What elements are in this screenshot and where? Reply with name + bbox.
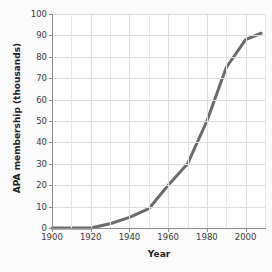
y-axis-tick-mark (49, 14, 52, 15)
y-axis-tick-label: 20 (3, 180, 47, 190)
y-axis-tick-mark (49, 121, 52, 122)
gridline-horizontal (52, 78, 265, 79)
x-axis-tick-label: 1900 (32, 232, 72, 242)
gridline-vertical-minor (149, 14, 150, 228)
gridline-horizontal (52, 100, 265, 101)
y-axis-tick-label: 50 (3, 116, 47, 126)
plot-area (52, 14, 265, 228)
x-axis-tick-label: 2000 (226, 232, 266, 242)
series-polyline (52, 33, 261, 228)
gridline-vertical-major (207, 14, 208, 228)
y-axis-title: APA membership (thousands) (12, 8, 22, 228)
y-axis-tick-mark (49, 35, 52, 36)
gridline-horizontal (52, 121, 265, 122)
x-axis-tick-label: 1980 (187, 232, 227, 242)
y-axis-tick-mark (49, 164, 52, 165)
y-axis-tick-label: 100 (3, 9, 47, 19)
gridline-vertical-minor (188, 14, 189, 228)
gridline-vertical-minor (71, 14, 72, 228)
gridline-horizontal (52, 164, 265, 165)
gridline-horizontal (52, 207, 265, 208)
y-axis-tick-label: 40 (3, 137, 47, 147)
x-axis-tick-mark (168, 229, 169, 232)
y-axis-tick-mark (49, 100, 52, 101)
y-axis-tick-label: 90 (3, 30, 47, 40)
x-axis-tick-label: 1920 (71, 232, 111, 242)
gridline-vertical-minor (265, 14, 266, 228)
y-axis-tick-label: 30 (3, 159, 47, 169)
y-axis-tick-label: 10 (3, 202, 47, 212)
gridline-vertical-major (168, 14, 169, 228)
x-axis-line (52, 228, 266, 229)
gridline-vertical-minor (110, 14, 111, 228)
y-axis-tick-label: 60 (3, 95, 47, 105)
x-axis-tick-label: 1940 (109, 232, 149, 242)
x-axis-title: Year (52, 249, 266, 259)
gridline-horizontal (52, 185, 265, 186)
gridline-vertical-minor (226, 14, 227, 228)
y-axis-tick-label: 80 (3, 52, 47, 62)
y-axis-tick-mark (49, 142, 52, 143)
gridline-vertical-major (91, 14, 92, 228)
x-axis-tick-mark (207, 229, 208, 232)
y-axis-tick-mark (49, 57, 52, 58)
x-axis-tick-mark (246, 229, 247, 232)
gridline-vertical-major (129, 14, 130, 228)
chart-canvas: 0102030405060708090100190019201940196019… (0, 0, 272, 272)
y-axis-tick-label: 70 (3, 73, 47, 83)
gridline-horizontal (52, 57, 265, 58)
x-axis-tick-mark (52, 229, 53, 232)
y-axis-tick-mark (49, 78, 52, 79)
gridline-horizontal (52, 35, 265, 36)
y-axis-line (52, 14, 53, 229)
x-axis-tick-label: 1960 (148, 232, 188, 242)
y-axis-tick-mark (49, 185, 52, 186)
gridline-vertical-major (246, 14, 247, 228)
x-axis-tick-mark (129, 229, 130, 232)
y-axis-tick-mark (49, 207, 52, 208)
gridline-horizontal (52, 142, 265, 143)
x-axis-tick-mark (91, 229, 92, 232)
gridline-horizontal (52, 14, 265, 15)
